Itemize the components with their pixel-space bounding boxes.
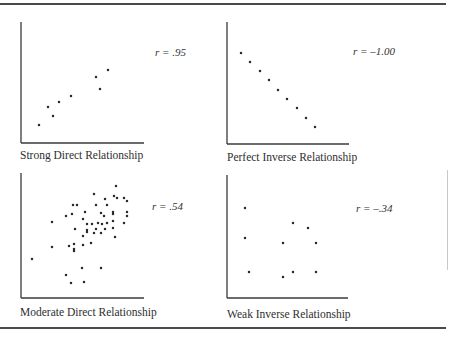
data-point	[90, 242, 93, 245]
data-point	[81, 267, 84, 270]
data-point	[95, 228, 98, 231]
data-point	[126, 200, 129, 203]
data-point	[47, 106, 50, 109]
data-point	[73, 243, 76, 246]
data-point	[249, 61, 252, 64]
r-value-strong-direct: r = .95	[155, 46, 186, 58]
data-point	[116, 197, 119, 200]
data-point	[123, 197, 126, 200]
data-point	[114, 236, 117, 239]
data-point	[38, 124, 41, 127]
r-value-moderate-direct: r = .54	[152, 200, 183, 212]
data-point	[97, 222, 100, 225]
data-point	[292, 222, 295, 225]
data-point	[112, 220, 115, 223]
data-point	[292, 271, 295, 274]
caption-weak-inverse: Weak Inverse Relationship	[227, 308, 351, 320]
data-point	[95, 204, 98, 207]
data-point	[104, 228, 107, 231]
data-point	[65, 274, 68, 277]
caption-moderate-direct: Moderate Direct Relationship	[20, 306, 157, 318]
data-point	[101, 223, 104, 226]
data-point	[315, 242, 318, 245]
data-point	[277, 89, 280, 92]
data-point	[72, 204, 75, 207]
data-point	[70, 95, 73, 98]
data-point	[282, 242, 285, 245]
data-point	[100, 232, 103, 235]
data-point	[103, 215, 106, 218]
r-value-perfect-inverse: r = –1.00	[353, 45, 395, 57]
data-point	[100, 267, 103, 270]
data-point	[73, 250, 76, 253]
r-value-weak-inverse: r = –.34	[356, 202, 392, 214]
scatter-moderate-direct	[21, 173, 144, 298]
data-point	[113, 195, 116, 198]
data-point	[106, 222, 109, 225]
data-point	[244, 207, 247, 210]
data-point	[100, 212, 103, 215]
data-point	[107, 69, 110, 72]
data-point	[99, 88, 102, 91]
data-point	[307, 227, 310, 230]
data-point	[86, 231, 89, 234]
data-point	[314, 126, 317, 129]
data-point	[51, 221, 54, 224]
data-point	[84, 211, 87, 214]
data-point	[240, 52, 243, 55]
scatter-perfect-inverse	[227, 22, 349, 144]
data-point	[93, 193, 96, 196]
data-point	[31, 258, 34, 261]
data-point	[286, 98, 289, 101]
data-point	[305, 117, 308, 120]
data-point	[82, 244, 85, 247]
caption-strong-direct: Strong Direct Relationship	[20, 149, 143, 161]
data-point	[91, 223, 94, 226]
data-point	[104, 198, 107, 201]
data-point	[244, 237, 247, 240]
data-point	[58, 101, 61, 104]
data-point	[282, 276, 285, 279]
scatter-strong-direct	[21, 22, 144, 143]
data-point	[112, 213, 115, 216]
data-point	[126, 211, 129, 214]
data-point	[70, 282, 73, 285]
data-point	[51, 246, 54, 249]
data-point	[71, 213, 74, 216]
data-point	[296, 107, 299, 110]
data-point	[82, 218, 85, 221]
data-point	[268, 79, 271, 82]
data-point	[248, 271, 251, 274]
data-point	[106, 204, 109, 207]
data-point	[126, 215, 129, 218]
data-point	[115, 185, 118, 188]
data-point	[68, 245, 71, 248]
data-point	[76, 204, 79, 207]
data-point	[93, 232, 96, 235]
data-point	[83, 281, 86, 284]
data-point	[52, 115, 55, 118]
data-point	[259, 70, 262, 73]
data-point	[82, 235, 85, 238]
scatter-weak-inverse	[227, 175, 348, 298]
data-point	[315, 271, 318, 274]
data-point	[112, 227, 115, 230]
data-point	[65, 215, 68, 218]
caption-perfect-inverse: Perfect Inverse Relationship	[227, 151, 357, 163]
data-point	[86, 223, 89, 226]
data-point	[74, 228, 77, 231]
data-point	[95, 76, 98, 79]
data-point	[123, 222, 126, 225]
